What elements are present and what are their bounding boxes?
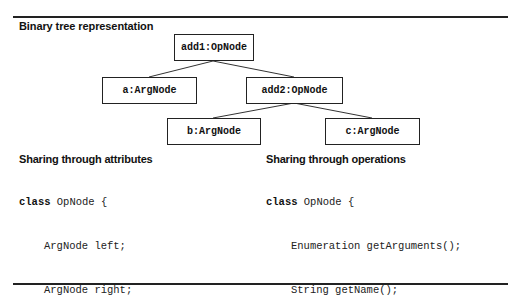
edge-add2-c (294, 103, 372, 118)
code-text: OpNode { (298, 196, 355, 208)
class-keyword: class (19, 196, 51, 208)
bottom-rule (13, 283, 508, 285)
node-add1: add1:OpNode (174, 34, 254, 61)
attributes-heading: Sharing through attributes (19, 153, 153, 165)
node-add2: add2:OpNode (246, 77, 343, 104)
node-a: a:ArgNode (102, 77, 197, 104)
code-line: class OpNode { (266, 195, 461, 210)
code-line: class OpNode { (19, 195, 132, 210)
operations-heading: Sharing through operations (266, 153, 406, 165)
class-keyword: class (266, 196, 298, 208)
node-c: c:ArgNode (325, 118, 420, 145)
node-b: b:ArgNode (167, 118, 261, 145)
attributes-code: class OpNode { ArgNode left; ArgNode rig… (19, 166, 132, 298)
code-line: Enumeration getArguments(); (266, 239, 461, 254)
edge-add2-b (213, 103, 294, 118)
operations-code: class OpNode { Enumeration getArguments(… (266, 166, 461, 298)
edge-add1-a (149, 61, 213, 77)
edge-add1-add2 (213, 61, 294, 77)
code-text: OpNode { (51, 196, 108, 208)
code-line: ArgNode left; (19, 239, 132, 254)
